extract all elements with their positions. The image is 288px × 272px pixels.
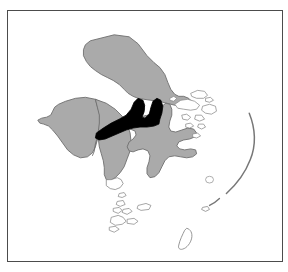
map-shape-northern-landmass[interactable] <box>83 35 192 106</box>
map-shape-peninsula-tip-outline[interactable] <box>106 178 123 190</box>
map-shape-far-east-arc-segment[interactable] <box>210 199 220 206</box>
locator-map-figure <box>0 0 288 272</box>
map-shape-southern-island-chain[interactable] <box>109 193 151 233</box>
map-canvas[interactable] <box>8 11 282 261</box>
map-shape-far-east-arc[interactable] <box>226 113 254 193</box>
map-shape-ring-islet[interactable] <box>206 176 214 183</box>
map-frame <box>7 10 283 262</box>
map-shape-bottom-islet[interactable] <box>178 228 191 249</box>
map-shape-far-east-arc-islet[interactable] <box>202 206 210 211</box>
